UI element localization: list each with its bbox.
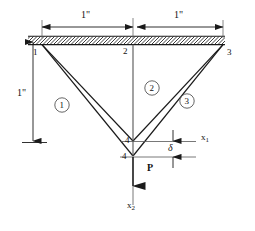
- axis-label-x1: x1: [201, 133, 209, 144]
- node-label-3: 3: [227, 48, 232, 57]
- truss-members-undeformed: [42, 45, 223, 141]
- axis-x1-subscript: 1: [206, 136, 210, 144]
- axis-x2-subscript: 2: [132, 204, 136, 212]
- diagram-canvas: [0, 0, 255, 231]
- dimension-label-top-left: 1": [81, 10, 90, 20]
- top-dimension-left: [42, 18, 133, 38]
- element-label-3: 3: [185, 97, 190, 106]
- element-label-1: 1: [60, 101, 65, 110]
- node-label-1: 1: [33, 48, 38, 57]
- dimension-label-left-vertical: 1": [17, 88, 26, 98]
- node-label-4-undeformed: 4: [125, 136, 130, 145]
- element-label-2: 2: [150, 84, 155, 93]
- dimension-label-top-right: 1": [174, 10, 183, 20]
- axis-label-x2: x2: [127, 201, 135, 212]
- node-label-2: 2: [123, 47, 128, 56]
- load-label-P: P: [147, 163, 153, 173]
- truss-diagram-figure: 1" 1" 1" 1 2 3 4 4 1 2 3 P δ x1 x2: [0, 0, 255, 231]
- top-dimension-right: [137, 20, 223, 38]
- node-label-4-deformed: 4: [122, 152, 127, 161]
- ceiling-support-hatching: [28, 36, 225, 44]
- delta-symbol-label: δ: [168, 143, 173, 153]
